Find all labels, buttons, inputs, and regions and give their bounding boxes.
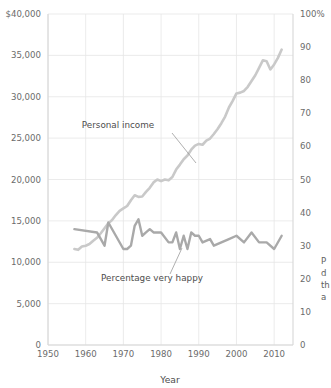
series-annotations: Personal incomePercentage very happy xyxy=(82,120,203,283)
series-line-2 xyxy=(74,219,281,249)
y-left-tick-label: 35,000 xyxy=(11,50,41,60)
leader-line-percentage-very-happy xyxy=(170,248,182,274)
x-tick-label: 1990 xyxy=(188,349,210,359)
y-left-tick-label: 15,000 xyxy=(11,216,41,226)
y-left-tick-label: 30,000 xyxy=(11,92,41,102)
x-tick-label: 1980 xyxy=(150,349,172,359)
y-right-tick-label: 40 xyxy=(300,208,311,218)
y-right-tick-label: 0 xyxy=(300,340,305,350)
chart-container: 1950196019701980199020002010 05,00010,00… xyxy=(0,0,331,388)
series-line-1 xyxy=(74,50,281,250)
line-chart: 1950196019701980199020002010 05,00010,00… xyxy=(0,0,331,388)
y-right-tick-label: 50 xyxy=(300,175,311,185)
side-caption-line-2: d xyxy=(321,268,326,278)
x-tick-label: 2010 xyxy=(263,349,285,359)
x-tick-label: 1970 xyxy=(112,349,134,359)
series-paths xyxy=(74,50,281,250)
side-caption-line-1: P xyxy=(321,256,326,266)
annotation-leader-lines xyxy=(170,133,196,274)
y-right-tick-label: 90 xyxy=(300,42,311,52)
side-caption-line-3: th xyxy=(321,280,330,290)
y-left-tick-label: 20,000 xyxy=(11,175,41,185)
y-left-tick-label: 0 xyxy=(36,340,41,350)
y-axis-left-tick-labels: 05,00010,00015,00020,00025,00030,00035,0… xyxy=(5,9,41,350)
y-left-tick-label: $40,000 xyxy=(5,9,41,19)
x-axis-tick-labels: 1950196019701980199020002010 xyxy=(37,349,285,359)
y-right-tick-label: 70 xyxy=(300,108,311,118)
y-right-tick-label: 80 xyxy=(300,75,311,85)
y-right-tick-label: 100% xyxy=(300,9,325,19)
annotation-label-1: Personal income xyxy=(82,120,154,130)
y-left-tick-label: 25,000 xyxy=(11,133,41,143)
y-right-tick-label: 60 xyxy=(300,141,311,151)
side-caption: P d th a xyxy=(321,256,330,302)
x-tick-label: 1950 xyxy=(37,349,59,359)
y-left-tick-label: 10,000 xyxy=(11,257,41,267)
y-left-tick-label: 5,000 xyxy=(16,299,41,309)
y-right-tick-label: 20 xyxy=(300,274,311,284)
x-tick-label: 1960 xyxy=(75,349,97,359)
y-right-tick-label: 30 xyxy=(300,241,311,251)
y-right-tick-label: 10 xyxy=(300,307,311,317)
x-axis-title: Year xyxy=(159,374,180,385)
annotation-label-2: Percentage very happy xyxy=(101,273,203,283)
x-tick-label: 2000 xyxy=(226,349,248,359)
side-caption-line-4: a xyxy=(321,292,326,302)
